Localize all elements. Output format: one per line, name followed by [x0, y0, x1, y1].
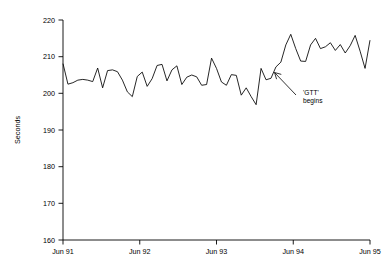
chart-container: 220 210 200 190 180 170 160 Seconds Jun …	[0, 0, 389, 267]
y-axis: 220 210 200 190 180 170 160 Seconds	[13, 16, 63, 245]
data-series-line	[63, 34, 370, 104]
annotation-label-line2: begins	[303, 97, 323, 105]
gtt-annotation: 'GTT' begins	[275, 73, 324, 106]
x-tick-label-jun-91: Jun 91	[52, 247, 74, 256]
y-axis-ticks	[59, 20, 64, 240]
line-chart: 220 210 200 190 180 170 160 Seconds Jun …	[0, 0, 389, 267]
y-tick-label-200: 200	[43, 89, 55, 98]
y-tick-label-160: 160	[43, 236, 55, 245]
y-axis-tick-labels: 220 210 200 190 180 170 160	[43, 16, 55, 245]
y-tick-label-220: 220	[43, 16, 55, 25]
x-tick-label-jun-93: Jun 93	[206, 247, 228, 256]
x-tick-label-jun-92: Jun 92	[129, 247, 151, 256]
y-tick-label-180: 180	[43, 162, 55, 171]
y-tick-label-170: 170	[43, 199, 55, 208]
x-axis-ticks	[63, 240, 370, 245]
x-tick-label-jun-95: Jun 95	[359, 247, 381, 256]
annotation-arrow-line	[275, 73, 297, 96]
x-axis-tick-labels: Jun 91 Jun 92 Jun 93 Jun 94 Jun 95	[52, 247, 381, 256]
y-tick-label-210: 210	[43, 52, 55, 61]
x-axis: Jun 91 Jun 92 Jun 93 Jun 94 Jun 95	[52, 240, 381, 256]
y-tick-label-190: 190	[43, 126, 55, 135]
annotation-label-line1: 'GTT'	[303, 89, 319, 96]
x-tick-label-jun-94: Jun 94	[282, 247, 304, 256]
y-axis-title: Seconds	[13, 116, 22, 144]
